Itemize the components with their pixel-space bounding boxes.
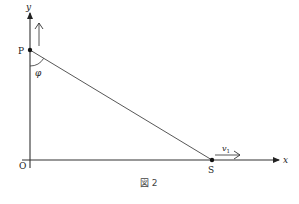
velocity-v1-label: v1 [222,144,230,154]
point-p [28,48,32,52]
x-axis-label: x [283,155,288,165]
angle-phi-arc [30,58,44,66]
velocity-v1-subscript: 1 [227,148,231,154]
figure-caption: 図 2 [140,178,158,188]
point-s [210,158,214,162]
diagram-figure: y x O P S φ v1 図 2 [0,0,299,204]
angle-phi-label: φ [35,68,42,78]
y-axis-label: y [25,2,32,12]
origin-label: O [19,161,26,171]
line-p-to-s [30,50,212,160]
point-p-label: P [18,46,24,56]
point-s-label: S [208,165,214,175]
